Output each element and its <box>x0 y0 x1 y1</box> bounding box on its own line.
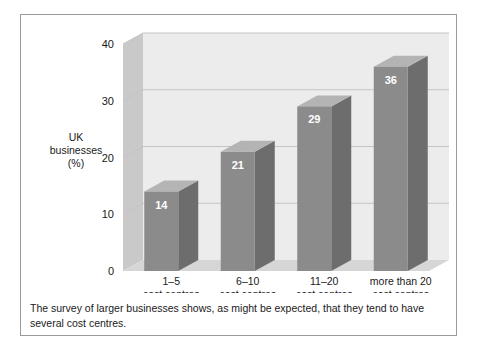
y-axis-tick-label: 20 <box>102 152 114 164</box>
chart-canvas: 010203040UKbusinesses(%)141–5cost centre… <box>21 15 456 293</box>
y-axis-title-line: businesses <box>50 144 103 156</box>
bar-value-label: 29 <box>308 113 320 125</box>
bar-front-face <box>374 67 408 271</box>
x-axis-category-label: cost centres <box>296 288 353 293</box>
x-axis-category-label: more than 20 <box>370 275 432 287</box>
bar-side-face <box>408 56 428 271</box>
bar-value-label: 14 <box>155 199 168 211</box>
y-axis-tick-label: 30 <box>102 95 114 107</box>
x-axis-category-label: cost centres <box>219 288 276 293</box>
bar-side-face <box>331 95 351 271</box>
y-axis-title-line: UK <box>69 131 84 143</box>
bar-side-face <box>178 181 198 271</box>
x-axis-category-label: cost centres <box>143 288 200 293</box>
y-axis-title-line: (%) <box>68 157 84 169</box>
bar-value-label: 21 <box>232 159 244 171</box>
bar-side-face <box>255 141 275 271</box>
bar-chart: 010203040UKbusinesses(%)141–5cost centre… <box>21 15 456 293</box>
x-axis-category-label: 6–10 <box>236 275 260 287</box>
x-axis-category-label: cost centres <box>372 288 429 293</box>
x-axis-category-label: 1–5 <box>162 275 180 287</box>
figure-panel: 010203040UKbusinesses(%)141–5cost centre… <box>20 14 457 336</box>
y-axis-tick-label: 0 <box>108 265 114 277</box>
y-axis-tick-label: 40 <box>102 38 114 50</box>
x-axis-category-label: 11–20 <box>310 275 339 287</box>
figure-caption: The survey of larger businesses shows, a… <box>30 301 444 331</box>
bar-value-label: 36 <box>385 74 397 86</box>
y-axis-tick-label: 10 <box>102 208 114 220</box>
bar-front-face <box>297 106 331 271</box>
